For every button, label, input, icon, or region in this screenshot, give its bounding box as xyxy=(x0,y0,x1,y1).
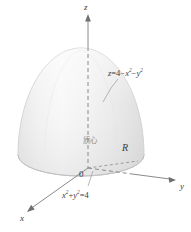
surface-equation-label: z=4−x2−y2 xyxy=(108,68,143,77)
z-axis-arrowhead xyxy=(85,14,91,22)
surface-eq-y-exponent: 2 xyxy=(140,67,143,73)
z-axis-label: z xyxy=(84,3,88,12)
x-axis-arrowhead xyxy=(27,205,35,212)
base-equation-label: x2+y2=4 xyxy=(62,190,89,199)
y-axis-label: y xyxy=(180,182,184,191)
origin-label: 0 xyxy=(79,170,84,179)
base-eq-const: 4 xyxy=(84,190,88,200)
paraboloid-diagram: z y x 0 R 质心 z=4−x2−y2 x2+y2=4 xyxy=(0,0,191,232)
centroid-label: 质心 xyxy=(83,137,97,145)
x-axis-label: x xyxy=(20,214,24,223)
diagram-canvas xyxy=(0,0,191,232)
region-label: R xyxy=(122,143,128,153)
y-axis-arrowhead xyxy=(169,177,176,183)
